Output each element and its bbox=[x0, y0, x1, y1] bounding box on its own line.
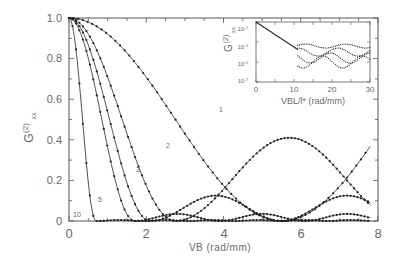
x-tick-label: 6 bbox=[297, 226, 304, 241]
svg-text:10-7: 10-7 bbox=[238, 77, 249, 84]
inset-y-tick-labels: 10-1 10-3 10-5 10-7 bbox=[238, 25, 249, 84]
y-tick-label: 0.2 bbox=[47, 174, 62, 186]
svg-text:(2): (2) bbox=[222, 35, 230, 44]
y-tick-label: 0 bbox=[56, 215, 62, 227]
inset-x-axis-label: VBL/l* (rad/mm) bbox=[281, 96, 345, 106]
curve-label-1: 1 bbox=[219, 106, 223, 113]
svg-text:xx: xx bbox=[230, 27, 236, 33]
svg-text:10-3: 10-3 bbox=[238, 43, 249, 50]
svg-text:G: G bbox=[22, 133, 36, 142]
curve-label-10: 10 bbox=[73, 211, 81, 218]
x-tick-label: 0 bbox=[65, 226, 72, 241]
y-tick-label: 1.0 bbox=[47, 12, 62, 24]
svg-text:20: 20 bbox=[328, 85, 337, 94]
svg-text:10-1: 10-1 bbox=[238, 25, 249, 32]
chart: 1.0 0.8 0.6 0.4 0.2 0 0 2 4 6 8 VB (rad/… bbox=[0, 0, 393, 261]
curve-label-3: 3 bbox=[136, 166, 140, 173]
svg-text:(2): (2) bbox=[21, 123, 30, 133]
y-tick-label: 0.8 bbox=[47, 52, 62, 64]
svg-text:xx: xx bbox=[30, 112, 37, 120]
y-axis-label: G (2) xx bbox=[21, 112, 37, 143]
inset-y-axis-label: G (2) xx bbox=[222, 27, 236, 52]
inset-x-tick-labels: 0 10 20 30 bbox=[254, 85, 375, 94]
svg-text:10-5: 10-5 bbox=[238, 60, 249, 67]
svg-text:0: 0 bbox=[254, 85, 259, 94]
svg-text:G: G bbox=[223, 44, 234, 52]
inset-frame bbox=[256, 22, 370, 82]
x-tick-label: 4 bbox=[220, 226, 227, 241]
curve-label-2: 2 bbox=[166, 142, 170, 149]
y-tick-label: 0.4 bbox=[47, 134, 62, 146]
x-tick-label: 2 bbox=[142, 226, 149, 241]
x-tick-label: 8 bbox=[374, 226, 381, 241]
svg-text:10: 10 bbox=[290, 85, 299, 94]
svg-text:30: 30 bbox=[366, 85, 375, 94]
y-tick-label: 0.6 bbox=[47, 93, 62, 105]
x-axis-label: VB (rad/mm) bbox=[189, 242, 251, 253]
curve-label-5: 5 bbox=[98, 196, 102, 203]
